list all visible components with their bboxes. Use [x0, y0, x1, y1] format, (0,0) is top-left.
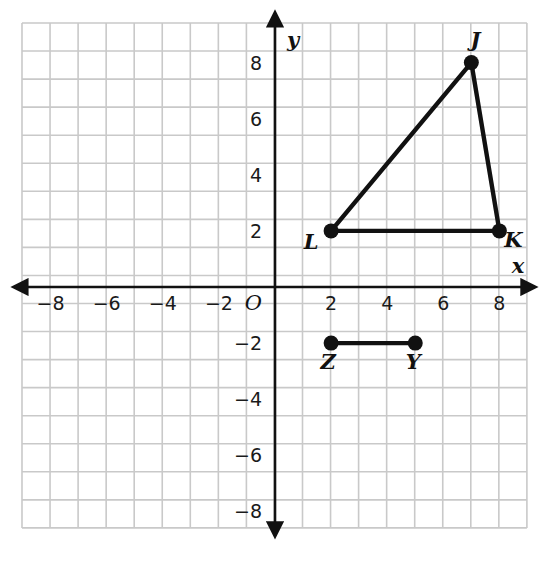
point-label-K: K — [503, 227, 523, 252]
y-tick-label: −8 — [234, 500, 262, 522]
y-tick-label: −6 — [234, 444, 262, 466]
point-label-L: L — [303, 229, 319, 254]
y-axis-label: y — [286, 27, 301, 52]
point-label-Y: Y — [406, 349, 423, 374]
x-axis-label: x — [511, 253, 525, 278]
coordinate-plane-figure: −8−6−4−224688642−2−4−6−8OxyJKLZY — [0, 0, 545, 565]
point-label-Z: Z — [319, 349, 336, 374]
vertex-point-J — [464, 55, 479, 70]
origin-label: O — [245, 291, 262, 315]
coordinate-plane-svg: −8−6−4−224688642−2−4−6−8OxyJKLZY — [0, 0, 545, 565]
x-tick-label: 4 — [381, 292, 393, 314]
x-tick-label: −2 — [205, 292, 233, 314]
x-tick-label: 8 — [493, 292, 505, 314]
y-tick-label: 2 — [250, 220, 262, 242]
y-tick-label: −4 — [234, 388, 262, 410]
y-tick-label: 4 — [250, 164, 262, 186]
y-tick-label: 8 — [250, 52, 262, 74]
x-tick-label: −8 — [37, 292, 65, 314]
vertex-point-L — [324, 223, 339, 238]
x-tick-label: 2 — [325, 292, 337, 314]
x-tick-label: 6 — [437, 292, 449, 314]
y-tick-label: −2 — [234, 332, 262, 354]
x-tick-label: −6 — [93, 292, 121, 314]
figure-background — [0, 0, 545, 565]
y-tick-label: 6 — [250, 108, 262, 130]
x-tick-label: −4 — [149, 292, 177, 314]
